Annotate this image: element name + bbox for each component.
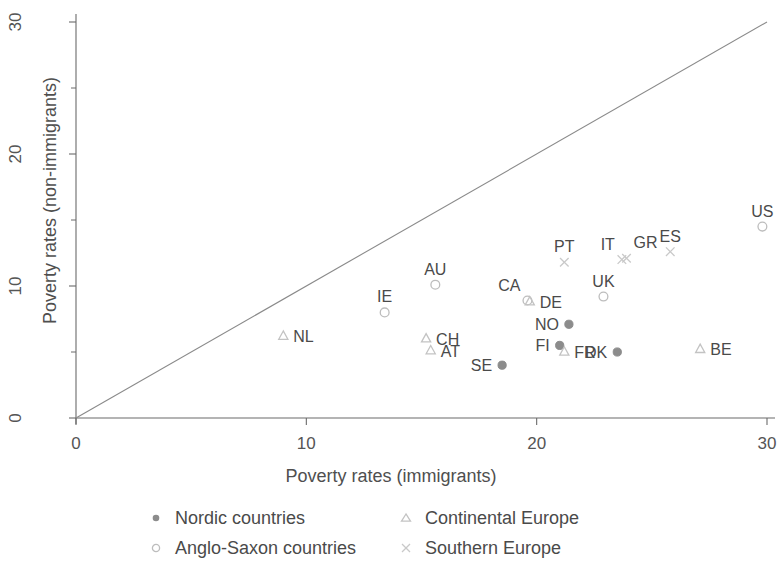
x-tick-label: 20 — [497, 434, 577, 454]
legend-label: Southern Europe — [425, 538, 561, 559]
point-label-es: ES — [610, 229, 730, 245]
point-label-fr: FR — [574, 345, 595, 361]
data-point-nl — [279, 331, 288, 339]
point-label-ie: IE — [325, 289, 445, 305]
legend-marker-triangle-icon — [400, 512, 412, 524]
data-point-us — [758, 222, 767, 231]
legend-marker-filled-circle-icon — [150, 512, 162, 524]
point-label-it: IT — [495, 237, 615, 253]
data-point-dk — [613, 348, 621, 356]
point-label-at: AT — [441, 344, 460, 360]
point-label-au: AU — [375, 262, 495, 278]
data-point-be — [696, 344, 705, 352]
point-label-se: SE — [372, 358, 492, 374]
legend-label: Continental Europe — [425, 508, 579, 529]
chart-legend: Nordic countriesContinental EuropeAnglo-… — [150, 505, 670, 565]
point-label-de: DE — [540, 295, 562, 311]
x-tick-label: 30 — [727, 434, 782, 454]
scatter-plot-figure: 01020300102030 Poverty rates (immigrants… — [0, 0, 782, 566]
point-label-uk: UK — [543, 274, 663, 290]
data-point-no — [565, 320, 573, 328]
y-tick-label: 20 — [6, 114, 26, 194]
y-tick-label: 10 — [6, 246, 26, 326]
data-point-ie — [380, 308, 389, 317]
x-axis-title: Poverty rates (immigrants) — [0, 466, 782, 487]
legend-item-continental-europe[interactable]: Continental Europe — [400, 505, 579, 531]
data-point-se — [498, 361, 506, 369]
x-tick-label: 10 — [266, 434, 346, 454]
point-label-us: US — [702, 204, 782, 220]
legend-item-nordic-countries[interactable]: Nordic countries — [150, 505, 305, 531]
legend-label: Nordic countries — [175, 508, 305, 529]
point-label-nl: NL — [293, 329, 313, 345]
y-tick-label: 30 — [6, 0, 26, 62]
legend-marker-cross-icon — [400, 542, 412, 554]
legend-label: Anglo-Saxon countries — [175, 538, 356, 559]
legend-marker-open-circle-icon — [150, 542, 162, 554]
point-label-be: BE — [710, 342, 731, 358]
x-tick-label: 0 — [36, 434, 116, 454]
legend-item-anglo-saxon-countries[interactable]: Anglo-Saxon countries — [150, 535, 356, 561]
y-axis-title: Poverty rates (non-immigrants) — [40, 31, 61, 371]
data-point-uk — [599, 292, 608, 301]
legend-item-southern-europe[interactable]: Southern Europe — [400, 535, 561, 561]
y-tick-label: 0 — [6, 378, 26, 458]
